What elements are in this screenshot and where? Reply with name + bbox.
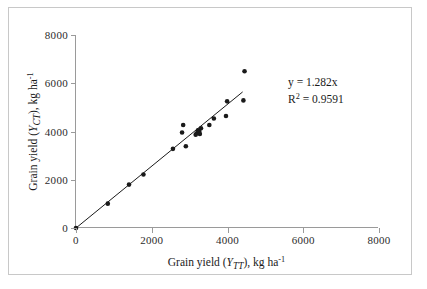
y-tick-mark bbox=[71, 132, 76, 133]
r-squared-text: R2 = 0.9591 bbox=[288, 91, 344, 108]
regression-annotation: y = 1.282x R2 = 0.9591 bbox=[288, 74, 344, 107]
x-tick-mark bbox=[228, 228, 229, 233]
r-squared-value: = 0.9591 bbox=[300, 93, 344, 105]
data-point bbox=[184, 144, 189, 149]
data-point bbox=[198, 132, 203, 137]
data-point bbox=[241, 98, 246, 103]
y-tick-label: 4000 bbox=[45, 126, 68, 138]
y-tick-mark bbox=[71, 83, 76, 84]
x-tick-mark bbox=[303, 228, 304, 233]
y-tick-mark bbox=[71, 35, 76, 36]
x-tick-label: 0 bbox=[73, 234, 79, 246]
data-point bbox=[127, 182, 132, 187]
y-axis-title: Grain yield (YCT), kg ha-1 bbox=[26, 35, 42, 228]
x-tick-label: 4000 bbox=[216, 234, 239, 246]
y-tick-label: 2000 bbox=[45, 174, 68, 186]
x-tick-mark bbox=[76, 228, 77, 233]
x-tick-label: 2000 bbox=[140, 234, 163, 246]
x-tick-mark bbox=[379, 228, 380, 233]
chart-figure: 02000400060008000 02000400060008000 Grai… bbox=[0, 0, 427, 289]
data-point bbox=[225, 99, 230, 104]
scatter-plot-svg bbox=[76, 35, 379, 228]
data-point bbox=[207, 123, 212, 128]
x-tick-mark bbox=[152, 228, 153, 233]
r-squared-prefix: R bbox=[288, 93, 296, 105]
y-tick-label: 8000 bbox=[45, 29, 68, 41]
data-point bbox=[212, 116, 217, 121]
plot-area: 02000400060008000 02000400060008000 bbox=[75, 35, 378, 228]
y-tick-mark bbox=[71, 180, 76, 181]
data-point bbox=[180, 130, 185, 135]
data-point bbox=[224, 114, 229, 119]
y-tick-label: 6000 bbox=[45, 77, 68, 89]
data-point bbox=[171, 147, 176, 152]
data-point bbox=[141, 172, 146, 177]
y-tick-label: 0 bbox=[62, 222, 68, 234]
data-point bbox=[199, 126, 204, 131]
x-tick-label: 8000 bbox=[367, 234, 390, 246]
data-point bbox=[106, 201, 111, 206]
x-tick-label: 6000 bbox=[292, 234, 315, 246]
trend-line bbox=[76, 92, 243, 228]
data-point bbox=[181, 123, 186, 128]
data-point-group bbox=[74, 69, 247, 230]
data-point bbox=[242, 69, 247, 74]
x-axis-title: Grain yield (YTT), kg ha-1 bbox=[75, 255, 378, 271]
equation-text: y = 1.282x bbox=[288, 74, 344, 91]
